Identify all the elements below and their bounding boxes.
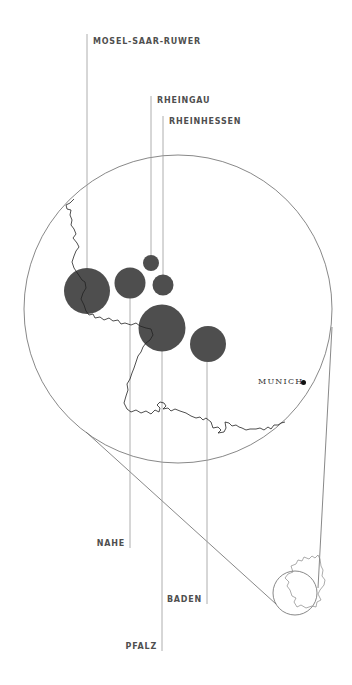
- label-rheingau: RHEINGAU: [157, 96, 210, 106]
- bubble-rheinhessen: [153, 275, 174, 296]
- callout-line-left: [86, 432, 276, 604]
- inset-circle: [273, 571, 317, 615]
- label-baden: BADEN: [152, 595, 202, 605]
- label-mosel-saar-ruwer: MOSEL-SAAR-RUWER: [93, 37, 201, 47]
- callout-line-right: [318, 327, 332, 588]
- label-nahe: NAHE: [85, 539, 125, 549]
- bubble-baden: [190, 326, 226, 362]
- magnifier-circle: [24, 155, 332, 463]
- wine-region-map: MOSEL-SAAR-RUWER RHEINGAU RHEINHESSEN NA…: [0, 0, 352, 685]
- city-dot-munich: [301, 380, 306, 385]
- bubble-nahe: [115, 268, 146, 299]
- label-rheinhessen: RHEINHESSEN: [169, 117, 241, 127]
- bubble-mosel: [64, 268, 110, 314]
- city-label-munich: MUNICH: [258, 377, 303, 387]
- bubble-rheingau: [143, 255, 159, 271]
- label-pfalz: PFALZ: [107, 642, 157, 652]
